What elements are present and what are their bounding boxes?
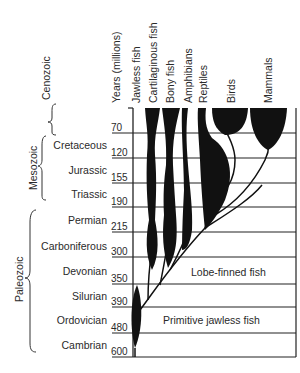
year-390: 390	[111, 296, 128, 307]
years-label: Years (millions)	[110, 32, 122, 103]
era-mesozoic: Mesozoic	[27, 146, 39, 190]
period-jurassic: Jurassic	[68, 164, 107, 176]
era-paleozoic: Paleozoic	[13, 256, 25, 302]
period-triassic: Triassic	[71, 188, 107, 200]
year-70: 70	[111, 122, 122, 133]
group-label-amphibians: Amphibians	[182, 48, 194, 103]
year-190: 190	[111, 196, 128, 207]
year-300: 300	[111, 246, 128, 257]
period-ordovician: Ordovician	[57, 314, 107, 326]
period-devonian: Devonian	[63, 265, 107, 277]
period-carboniferous: Carboniferous	[41, 240, 107, 252]
group-label-jawless-fish: Jawless fish	[130, 46, 142, 103]
group-label-cartilaginous-fish: Cartilaginous fish	[147, 22, 159, 103]
period-cambrian: Cambrian	[61, 339, 107, 351]
year-600: 600	[111, 346, 128, 357]
year-350: 350	[111, 273, 128, 284]
year-480: 480	[111, 322, 128, 333]
annotation-lobe-finned-fish: Lobe-finned fish	[191, 266, 266, 278]
period-silurian: Silurian	[72, 290, 107, 302]
period-cretaceous: Cretaceous	[53, 139, 107, 151]
group-label-bony-fish: Bony fish	[164, 60, 176, 103]
group-label-reptiles: Reptiles	[197, 65, 209, 103]
group-label-mammals: Mammals	[262, 57, 274, 103]
year-155: 155	[111, 172, 128, 183]
year-215: 215	[111, 221, 128, 232]
era-cenozoic: Cenozoic	[40, 56, 52, 100]
year-120: 120	[111, 147, 128, 158]
annotation-primitive-jawless-fish: Primitive jawless fish	[163, 314, 260, 326]
period-permian: Permian	[68, 214, 107, 226]
group-label-birds: Birds	[225, 79, 237, 103]
